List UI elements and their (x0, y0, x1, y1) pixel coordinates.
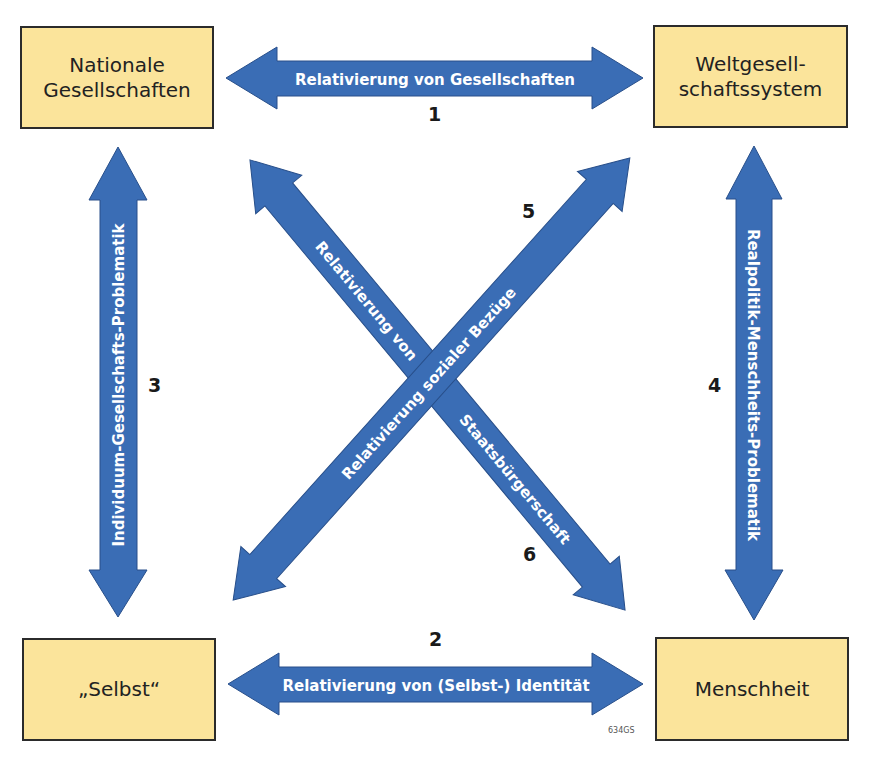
arrow-1-label: Relativierung von Gesellschaften (295, 71, 575, 89)
figure-code: 634GS (608, 726, 635, 735)
arrow-4-realpolitik-menschheit: Realpolitik-Menschheits-Problematik (725, 146, 783, 620)
arrow-6-label-line2: Staatsbürgerschaft (455, 411, 574, 548)
relation-number-2: 2 (429, 628, 442, 650)
relation-number-6: 6 (523, 543, 536, 565)
arrow-2-relativierung-identitaet: Relativierung von (Selbst-) Identität (228, 653, 643, 715)
arrow-1-relativierung-gesellschaften: Relativierung von Gesellschaften (226, 47, 643, 109)
relation-number-1: 1 (428, 103, 441, 125)
relation-number-3: 3 (148, 374, 161, 396)
arrow-3-individuum-gesellschaft: Individuum-Gesellschafts-Problematik (89, 147, 147, 617)
relation-number-4: 4 (708, 374, 721, 396)
arrow-2-label: Relativierung von (Selbst-) Identität (282, 677, 589, 695)
relation-number-5: 5 (522, 200, 535, 222)
arrow-3-label: Individuum-Gesellschafts-Problematik (110, 222, 128, 546)
arrow-4-label: Realpolitik-Menschheits-Problematik (744, 229, 762, 542)
arrow-6-label-line1: Relativierung von (311, 238, 421, 365)
